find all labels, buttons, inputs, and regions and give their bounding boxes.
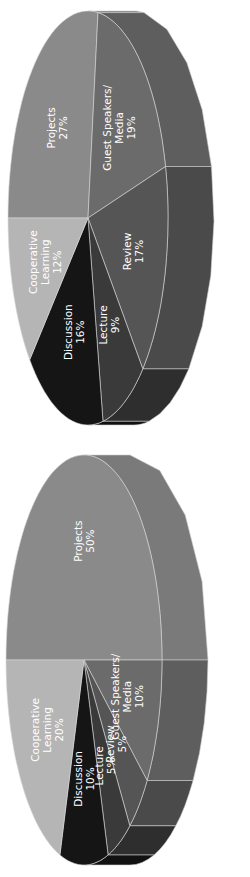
pie-chart-top-svg: Projects27%Guest Speakers/Media19%Review… [0,0,250,437]
pie-chart-top: Projects27%Guest Speakers/Media19%Review… [0,0,250,437]
pie-chart-bottom: Projects50%Guest Speakers/Media10%Review… [0,437,250,877]
pie-chart-bottom-svg: Projects50%Guest Speakers/Media10%Review… [0,437,250,877]
